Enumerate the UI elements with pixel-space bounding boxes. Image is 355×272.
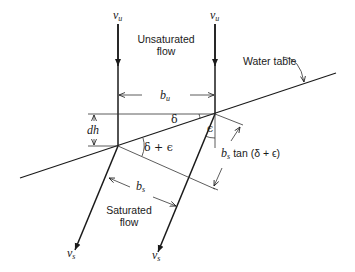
- water-table-line: [20, 73, 336, 178]
- perpendicular-line-b: [215, 114, 243, 125]
- vu-right-label: vu: [210, 8, 219, 23]
- delta-label: δ: [171, 113, 178, 126]
- unsaturated-label-1: Unsaturated: [137, 33, 194, 45]
- saturated-label-1: Saturated: [106, 204, 152, 216]
- delta-eps-label: δ + ϵ: [144, 141, 173, 154]
- saturated-flow-left: [75, 146, 118, 250]
- saturated-label-2: flow: [120, 216, 139, 228]
- refraction-diagram: vu vu Unsaturated flow Water table bu dh…: [0, 0, 355, 272]
- dh-label: dh: [87, 123, 99, 137]
- bu-label: bu: [160, 88, 170, 103]
- eps-angle-arc: [205, 136, 215, 138]
- bs-label: bs: [136, 179, 145, 194]
- eps-label: ϵ: [207, 122, 213, 135]
- vs-left-label: vs: [67, 246, 75, 261]
- unsaturated-label-2: flow: [157, 45, 176, 57]
- bs-tan-label: bstan (δ + ϵ): [221, 146, 280, 161]
- perpendicular-ext: [213, 188, 218, 190]
- water-table-label: Water table: [243, 55, 296, 67]
- vu-left-label: vu: [113, 8, 122, 23]
